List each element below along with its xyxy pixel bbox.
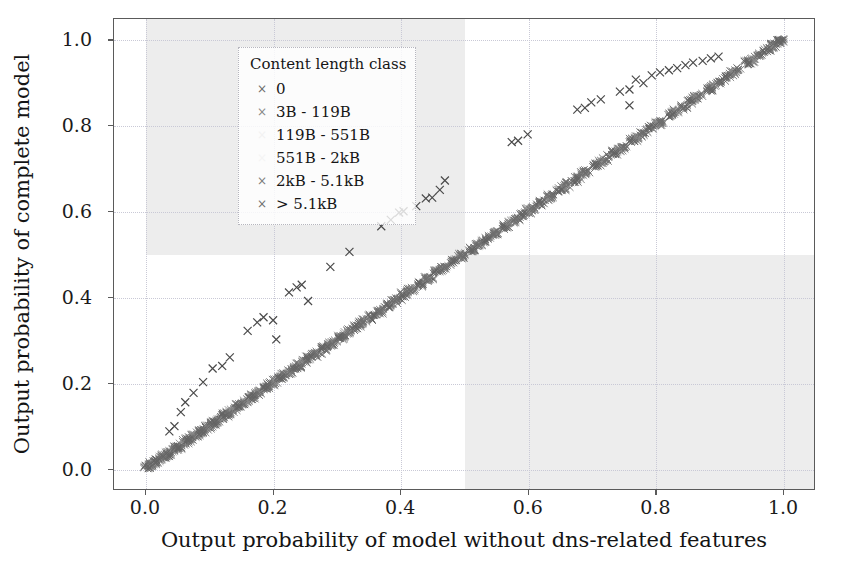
x-axis-title: Output probability of model without dns-…: [113, 528, 815, 552]
x-tick-mark: [528, 490, 529, 495]
scatter-marker: [170, 422, 178, 430]
legend-entry[interactable]: ×2kB - 5.1kB: [248, 169, 406, 192]
y-tick-mark: [108, 297, 113, 298]
legend-entry-label: 2kB - 5.1kB: [276, 172, 364, 190]
y-tick-mark: [108, 383, 113, 384]
scatter-marker: [285, 288, 293, 296]
legend-entry-label: 119B - 551B: [276, 126, 370, 144]
legend-entry-label: 3B - 119B: [276, 103, 351, 121]
x-tick-mark: [273, 490, 274, 495]
y-tick-mark: [108, 469, 113, 470]
legend-marker-x-icon: ×: [248, 198, 276, 210]
y-tick-label: 1.0: [62, 28, 92, 50]
scatter-marker: [244, 327, 252, 335]
legend-marker-x-icon: ×: [248, 83, 276, 95]
legend-entry[interactable]: ×0: [248, 77, 406, 100]
y-axis-title: Output probability of complete model: [10, 54, 34, 455]
x-tick-label: 0.8: [640, 496, 670, 518]
y-tick-label: 0.2: [62, 372, 92, 394]
figure-canvas: Output probability of complete model Con…: [0, 0, 858, 573]
scatter-points-layer: [114, 19, 814, 489]
y-tick-mark: [108, 125, 113, 126]
x-tick-mark: [655, 490, 656, 495]
legend-marker-x-icon: ×: [248, 175, 276, 187]
scatter-marker: [190, 389, 198, 397]
scatter-marker: [177, 408, 185, 416]
scatter-marker: [632, 76, 640, 84]
scatter-marker: [514, 137, 522, 145]
scatter-marker: [665, 66, 673, 74]
y-tick-mark: [108, 211, 113, 212]
legend-entry[interactable]: ×> 5.1kB: [248, 192, 406, 215]
x-tick-mark: [400, 490, 401, 495]
y-tick-label: 0.8: [62, 114, 92, 136]
legend-entry[interactable]: ×3B - 119B: [248, 100, 406, 123]
legend-title: Content length class: [250, 55, 406, 73]
scatter-marker: [639, 79, 647, 87]
legend-entry-label: 551B - 2kB: [276, 149, 360, 167]
y-axis-title-wrap: Output probability of complete model: [0, 0, 44, 508]
scatter-marker: [616, 88, 624, 96]
legend-entry-label: > 5.1kB: [276, 195, 337, 213]
scatter-marker: [326, 263, 334, 271]
x-tick-label: 0.2: [257, 496, 287, 518]
scatter-marker: [181, 398, 189, 406]
scatter-marker: [699, 57, 707, 65]
scatter-marker: [345, 248, 353, 256]
x-tick-mark: [145, 490, 146, 495]
scatter-marker: [199, 378, 207, 386]
legend-entries: ×0×3B - 119B×119B - 551B×551B - 2kB×2kB …: [248, 77, 406, 215]
scatter-marker: [689, 59, 697, 67]
scatter-marker: [715, 53, 723, 61]
scatter-marker: [260, 313, 268, 321]
scatter-marker: [441, 177, 449, 185]
scatter-marker: [648, 71, 656, 79]
x-tick-label: 0.0: [130, 496, 160, 518]
x-tick-label: 0.4: [385, 496, 415, 518]
scatter-marker: [304, 297, 312, 305]
scatter-marker: [597, 95, 605, 103]
scatter-marker: [209, 365, 217, 373]
y-tick-label: 0.4: [62, 286, 92, 308]
scatter-marker: [625, 101, 633, 109]
x-tick-label: 0.6: [513, 496, 543, 518]
scatter-marker: [707, 54, 715, 62]
legend-marker-x-icon: ×: [248, 129, 276, 141]
x-tick-mark: [783, 490, 784, 495]
scatter-marker: [625, 86, 633, 94]
scatter-marker: [269, 316, 277, 324]
scatter-marker: [573, 106, 581, 114]
y-tick-label: 0.0: [62, 458, 92, 480]
scatter-marker: [436, 186, 444, 194]
scatter-marker: [272, 335, 280, 343]
scatter-marker: [587, 98, 595, 106]
scatter-marker: [656, 68, 664, 76]
scatter-marker: [226, 353, 234, 361]
y-tick-label: 0.6: [62, 200, 92, 222]
y-tick-mark: [108, 39, 113, 40]
legend-entry-label: 0: [276, 80, 286, 98]
legend-marker-x-icon: ×: [248, 152, 276, 164]
scatter-marker: [673, 64, 681, 72]
x-tick-label: 1.0: [768, 496, 798, 518]
plot-area: Content length class ×0×3B - 119B×119B -…: [113, 18, 815, 490]
legend-entry[interactable]: ×119B - 551B: [248, 123, 406, 146]
scatter-marker: [218, 362, 226, 370]
scatter-marker: [428, 194, 436, 202]
scatter-marker: [524, 130, 532, 138]
legend: Content length class ×0×3B - 119B×119B -…: [238, 47, 416, 225]
legend-entry[interactable]: ×551B - 2kB: [248, 146, 406, 169]
legend-marker-x-icon: ×: [248, 106, 276, 118]
scatter-marker: [681, 61, 689, 69]
scatter-marker: [253, 318, 261, 326]
